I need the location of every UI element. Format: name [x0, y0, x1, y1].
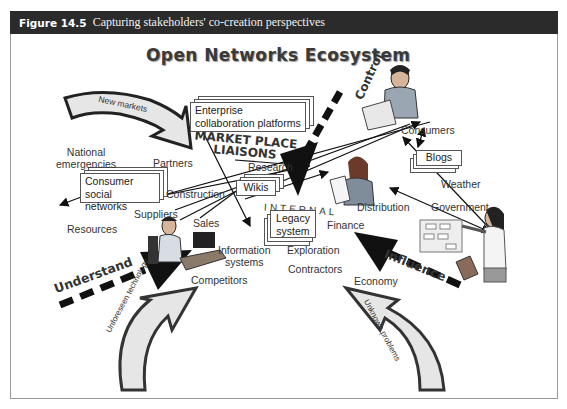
weather-label: Weather: [441, 178, 481, 190]
resources-label: Resources: [67, 223, 117, 235]
research-label: Research: [248, 161, 293, 173]
legacy-system-box: Legacy system: [264, 210, 320, 248]
legacy-line2: system: [271, 225, 315, 238]
unknown-problems-arrow-icon: [346, 288, 444, 390]
wikis-box: Wikis: [236, 174, 286, 198]
national-emergencies-label: National emergencies: [56, 146, 116, 170]
enterprise-line2: collaboration platforms: [195, 117, 301, 130]
economy-label: Economy: [354, 275, 398, 287]
woman-with-document-icon: [330, 156, 374, 205]
construction-label: Construction: [166, 188, 225, 200]
legacy-line1: Legacy: [271, 212, 315, 225]
contractors-label: Contractors: [288, 263, 342, 275]
unforeseen-technology-arrow-icon: [120, 288, 196, 390]
stack-card-front: Wikis: [236, 180, 276, 196]
enterprise-line1: Enterprise: [195, 104, 301, 117]
consumers-label: Consumers: [401, 124, 455, 136]
competitors-label: Competitors: [191, 274, 248, 286]
information-systems-label: Information systems: [218, 244, 271, 268]
sales-label: Sales: [193, 217, 219, 229]
blogs-box: Blogs: [410, 150, 466, 174]
consumer-social-networks-box: Consumer social networks: [80, 167, 170, 207]
suppliers-label: Suppliers: [134, 208, 178, 220]
finance-label: Finance: [327, 219, 364, 231]
information-systems-line2: systems: [218, 256, 271, 268]
national-emergencies-line2: emergencies: [56, 158, 116, 170]
national-emergencies-line1: National: [56, 146, 116, 158]
partners-label: Partners: [153, 157, 193, 169]
stack-card-front: Consumer social networks: [80, 173, 160, 203]
distribution-label: Distribution: [357, 201, 410, 213]
government-label: Government: [431, 201, 489, 213]
enterprise-collaboration-platforms-box: Enterprise collaboration platforms: [190, 96, 315, 136]
exploration-label: Exploration: [287, 244, 340, 256]
stack-card-front: Blogs: [416, 150, 462, 166]
stack-card-front: Legacy system: [270, 210, 316, 238]
consumer-line1: Consumer: [85, 175, 155, 188]
information-systems-line1: Information: [218, 244, 271, 256]
stack-card-front: Enterprise collaboration platforms: [190, 102, 306, 132]
